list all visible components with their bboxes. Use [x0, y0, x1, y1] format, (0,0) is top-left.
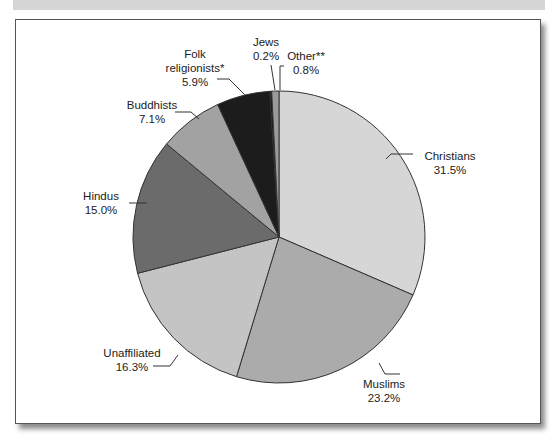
label-hindus-pct: 15.0% [85, 204, 118, 216]
label-other-pct: 0.8% [293, 64, 319, 76]
label-folk-pct: 5.9% [182, 76, 208, 88]
label-unaffiliated-name: Unaffiliated [103, 347, 160, 359]
leader-muslims [379, 363, 400, 374]
label-jews-pct: 0.2% [253, 50, 279, 62]
label-folk-line1: Folk [184, 48, 206, 60]
label-buddhists-pct: 7.1% [139, 113, 165, 125]
label-buddhists-name: Buddhists [127, 99, 178, 111]
label-unaffiliated-pct: 16.3% [116, 361, 149, 373]
label-other-name: Other** [287, 50, 325, 62]
leader-folk [217, 79, 245, 95]
leader-other [280, 66, 284, 90]
leader-jews [271, 65, 275, 90]
label-jews-name: Jews [253, 36, 279, 48]
label-hindus-name: Hindus [83, 190, 119, 202]
pie-slices [133, 91, 425, 383]
pie-chart: Christians 31.5% Muslims 23.2% Unaffilia… [0, 0, 558, 440]
label-christians-name: Christians [424, 150, 475, 162]
label-christians-pct: 31.5% [434, 164, 467, 176]
label-folk-line2: religionists* [166, 62, 225, 74]
label-muslims-name: Muslims [363, 378, 405, 390]
label-muslims-pct: 23.2% [368, 392, 401, 404]
